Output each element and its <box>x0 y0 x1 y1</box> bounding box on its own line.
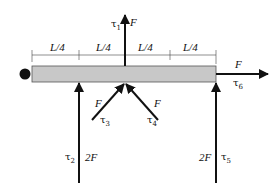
dim-label-2: L/4 <box>95 41 111 53</box>
tau1-force-label: F <box>129 16 137 28</box>
beam-diagram: L/4 L/4 L/4 L/4 τ1 F F τ6 τ2 2F 2F τ5 F … <box>0 0 280 195</box>
tau5-force-label: 2F <box>199 151 212 163</box>
tau6-force-label: F <box>234 58 242 70</box>
tau5-symbol: τ5 <box>221 151 231 165</box>
dim-label-3: L/4 <box>137 41 153 53</box>
tau2-force-label: 2F <box>85 151 98 163</box>
dim-label-4: L/4 <box>182 41 198 53</box>
beam <box>32 66 216 82</box>
tau1-symbol: τ1 <box>111 18 121 32</box>
tau6-symbol: τ6 <box>233 77 244 91</box>
dim-label-1: L/4 <box>49 41 65 53</box>
tau4-symbol: τ4 <box>147 114 158 128</box>
tau2-symbol: τ2 <box>65 151 75 165</box>
tau4-force-label: F <box>153 97 161 109</box>
tau3-force-label: F <box>94 97 102 109</box>
tau3-symbol: τ3 <box>100 114 110 128</box>
support-dot <box>20 69 31 80</box>
